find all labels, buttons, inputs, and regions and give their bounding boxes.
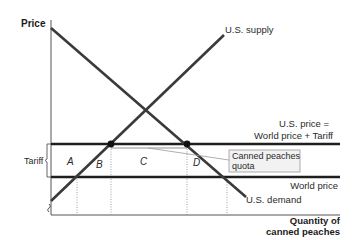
x-axis-label-1: Quantity of [290, 215, 341, 226]
area-c-label: C [140, 156, 148, 167]
demand-tariff-point [184, 141, 191, 148]
area-b-label: B [96, 159, 103, 170]
tariff-label: Tariff [24, 156, 44, 166]
callout-text-2: quota [232, 161, 255, 171]
callout-text-1: Canned peaches [232, 151, 301, 161]
supply-tariff-point [108, 141, 115, 148]
tariff-diagram: Price U.S. supply U.S. price = World pri… [0, 0, 359, 240]
world-price-label: World price [290, 180, 338, 191]
y-axis-label: Price [21, 18, 46, 29]
demand-label: U.S. demand [246, 194, 301, 205]
callout-pointer [148, 148, 229, 160]
area-a-label: A [66, 156, 74, 167]
us-price-label-2: World price + Tariff [254, 130, 333, 141]
supply-label: U.S. supply [225, 24, 274, 35]
area-d-label: D [193, 157, 200, 168]
us-price-label-1: U.S. price = [279, 118, 329, 129]
x-axis-label-2: canned peaches [266, 226, 340, 237]
axis-break-mark [48, 204, 51, 212]
tariff-brace [45, 144, 51, 177]
